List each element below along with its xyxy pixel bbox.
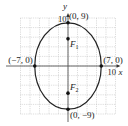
labels-group: yx1010(0, 9)(0, −9)(−7, 0)(7, 0)F1F2 [8, 1, 123, 120]
vertex-top-point [66, 21, 70, 25]
axes [6, 13, 121, 122]
focus-2-label: F2 [69, 82, 79, 93]
x-tick-label: 10 [108, 67, 117, 77]
y-tick-label: 10 [58, 14, 67, 24]
vertex-bottom-label: (0, −9) [70, 110, 95, 120]
covertex-right-label: (7, 0) [103, 55, 123, 65]
x-axis-label: x [118, 67, 123, 77]
vertex-top-label: (0, 9) [69, 11, 89, 21]
ellipse-plot: yx1010(0, 9)(0, −9)(−7, 0)(7, 0)F1F2 [0, 0, 128, 126]
covertex-left-label: (−7, 0) [8, 55, 33, 65]
focus-1-label: F1 [69, 39, 79, 50]
covertex-left-point [33, 64, 37, 68]
focus-2-subscript: 2 [76, 87, 79, 93]
focus-1-subscript: 1 [76, 44, 79, 50]
y-axis-label: y [62, 1, 67, 11]
